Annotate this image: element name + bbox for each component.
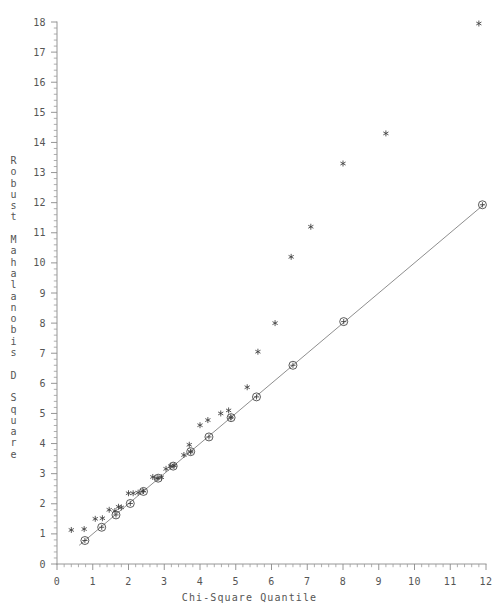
data-point-asterisk: [131, 490, 136, 496]
data-point-asterisk: [476, 21, 481, 27]
y-axis-title-glyph: q: [6, 404, 22, 415]
data-point-asterisk: [255, 349, 260, 355]
y-axis-title-glyph: i: [6, 336, 22, 347]
x-tick-label: 4: [197, 576, 203, 587]
y-axis-title: Robust Mahalanobis D Square: [6, 155, 22, 460]
y-axis-title-glyph: r: [6, 437, 22, 448]
x-tick-label: 5: [233, 576, 239, 587]
y-axis-title-glyph: [6, 223, 22, 234]
data-point-circle-plus: [98, 523, 106, 531]
y-axis-title-glyph: t: [6, 211, 22, 222]
data-point-circle-plus: [289, 361, 297, 369]
data-point-asterisk: [289, 254, 294, 260]
y-tick-label: 2: [40, 498, 46, 509]
y-axis-title-glyph: b: [6, 324, 22, 335]
data-point-circle-plus: [205, 433, 213, 441]
y-axis-title-glyph: e: [6, 449, 22, 460]
data-point-circle-plus: [340, 318, 348, 326]
data-point-asterisk: [197, 422, 202, 428]
x-tick-label: 10: [408, 576, 421, 587]
x-tick-label: 9: [376, 576, 382, 587]
y-axis-title-glyph: u: [6, 415, 22, 426]
data-point-asterisk: [181, 452, 186, 458]
y-axis-title-glyph: s: [6, 347, 22, 358]
y-tick-label: 14: [33, 137, 46, 148]
x-tick-label: 0: [54, 576, 60, 587]
data-point-asterisk: [126, 490, 131, 496]
data-point-asterisk: [107, 507, 112, 513]
y-axis-title-glyph: S: [6, 392, 22, 403]
y-axis-title-glyph: D: [6, 370, 22, 381]
y-tick-label: 18: [33, 17, 46, 28]
data-point-asterisk: [308, 224, 313, 230]
y-axis-title-glyph: a: [6, 245, 22, 256]
data-point-circle-plus: [478, 201, 486, 209]
x-tick-label: 1: [90, 576, 96, 587]
y-tick-label: 9: [40, 288, 46, 299]
data-point-circle-plus: [252, 393, 260, 401]
y-tick-label: 7: [40, 348, 46, 359]
data-point-asterisk: [272, 320, 277, 326]
y-axis-title-glyph: o: [6, 313, 22, 324]
y-axis-title-glyph: h: [6, 257, 22, 268]
chart-canvas: 0123456789101112 01234567891011121314151…: [0, 0, 499, 616]
y-axis-title-glyph: n: [6, 302, 22, 313]
y-tick-label: 15: [33, 107, 46, 118]
y-tick-label: 8: [40, 318, 46, 329]
data-point-asterisk: [340, 161, 345, 167]
data-point-circle-plus: [81, 537, 89, 545]
y-axis-title-glyph: R: [6, 155, 22, 166]
y-tick-label: 10: [33, 257, 46, 268]
reference-line: [79, 204, 484, 545]
x-tick-label: 2: [125, 576, 131, 587]
x-tick-label: 6: [268, 576, 274, 587]
y-axis-title-glyph: b: [6, 178, 22, 189]
data-point-asterisk: [100, 515, 105, 521]
y-axis-title-glyph: s: [6, 200, 22, 211]
y-tick-label: 1: [40, 528, 46, 539]
y-tick-label: 16: [33, 77, 46, 88]
x-tick-label: 11: [444, 576, 457, 587]
series-observed-points: [69, 21, 482, 533]
data-point-asterisk: [218, 410, 223, 416]
x-tick-label: 7: [304, 576, 310, 587]
x-axis: 0123456789101112: [54, 564, 493, 587]
qq-plot-chart: 0123456789101112 01234567891011121314151…: [0, 0, 499, 616]
y-axis-title-glyph: [6, 381, 22, 392]
data-point-asterisk: [205, 417, 210, 423]
data-point-asterisk: [226, 407, 231, 413]
y-axis-title-glyph: l: [6, 279, 22, 290]
data-point-circle-plus: [126, 499, 134, 507]
y-axis: 0123456789101112131415161718: [33, 17, 57, 570]
data-point-asterisk: [82, 526, 87, 532]
y-axis-title-glyph: a: [6, 426, 22, 437]
x-tick-label: 8: [340, 576, 346, 587]
x-axis-title: Chi-Square Quantile: [0, 592, 499, 603]
x-tick-label: 12: [480, 576, 493, 587]
data-point-asterisk: [245, 384, 250, 390]
data-point-asterisk: [93, 516, 98, 522]
y-axis-title-glyph: a: [6, 268, 22, 279]
y-tick-label: 17: [33, 47, 46, 58]
y-axis-title-glyph: u: [6, 189, 22, 200]
y-tick-label: 5: [40, 408, 46, 419]
y-axis-title-glyph: o: [6, 166, 22, 177]
y-axis-title-glyph: a: [6, 291, 22, 302]
y-tick-label: 6: [40, 378, 46, 389]
data-point-asterisk: [187, 442, 192, 448]
data-point-asterisk: [69, 527, 74, 533]
y-tick-label: 13: [33, 167, 46, 178]
y-tick-label: 4: [40, 438, 46, 449]
y-axis-title-glyph: [6, 358, 22, 369]
y-tick-label: 12: [33, 197, 46, 208]
x-tick-label: 3: [161, 576, 167, 587]
y-tick-label: 0: [40, 559, 46, 570]
y-tick-label: 3: [40, 468, 46, 479]
y-tick-label: 11: [33, 227, 46, 238]
data-point-asterisk: [383, 130, 388, 136]
y-axis-title-glyph: M: [6, 234, 22, 245]
